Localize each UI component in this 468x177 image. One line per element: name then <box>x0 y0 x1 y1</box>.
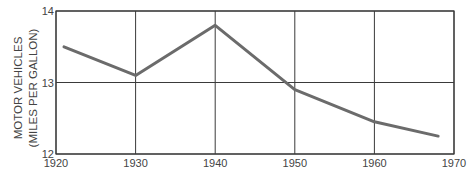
y-tick-labels: 121314 <box>42 5 54 160</box>
grid-lines <box>56 11 454 154</box>
y-axis-label-line2: (MILES PER GALLON) <box>27 28 39 147</box>
y-tick-label: 14 <box>42 5 54 17</box>
data-line <box>64 25 438 136</box>
x-tick-label: 1920 <box>44 157 68 169</box>
x-tick-label: 1960 <box>362 157 386 169</box>
y-axis-label-line1: MOTOR VEHICLES <box>12 36 24 139</box>
line-chart: 121314 192019301940195019601970 MOTOR VE… <box>0 0 468 177</box>
y-tick-label: 13 <box>42 77 54 89</box>
y-axis-label: MOTOR VEHICLES (MILES PER GALLON) <box>12 28 39 147</box>
x-tick-labels: 192019301940195019601970 <box>44 157 466 169</box>
x-tick-label: 1930 <box>123 157 147 169</box>
x-tick-label: 1950 <box>283 157 307 169</box>
x-tick-label: 1940 <box>203 157 227 169</box>
x-tick-label: 1970 <box>442 157 466 169</box>
